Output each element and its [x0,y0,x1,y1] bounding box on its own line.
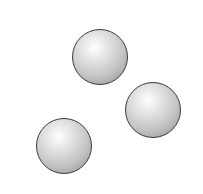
sphere-right [125,82,181,138]
diagram-canvas [0,0,203,194]
sphere-top [72,29,128,85]
sphere-bottom-left [36,118,92,174]
